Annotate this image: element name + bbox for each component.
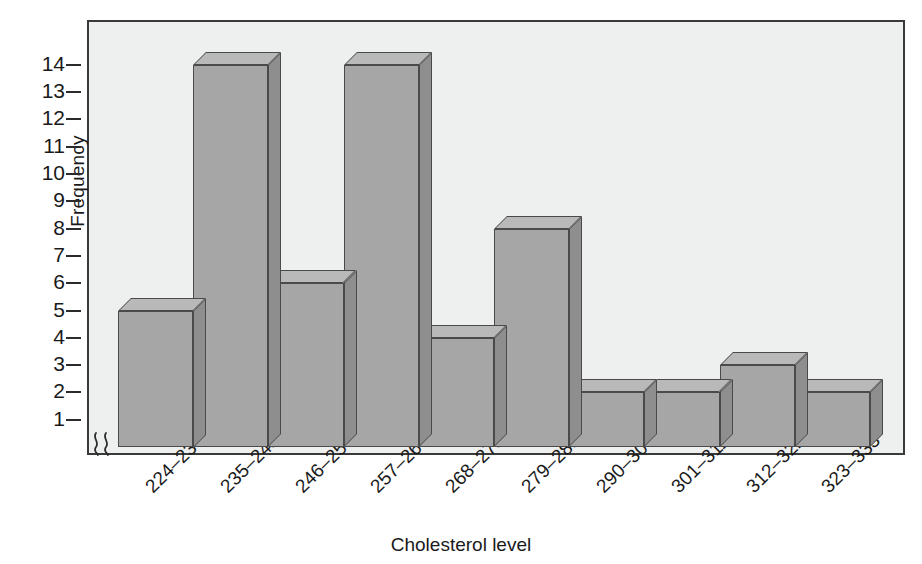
bar-side-face — [795, 352, 808, 447]
bar-top-face — [344, 52, 432, 65]
y-axis-tick-mark — [66, 337, 81, 339]
y-axis-tick-label: 8 — [53, 216, 65, 240]
bar-side-face — [193, 298, 206, 448]
y-axis-tick-mark — [66, 146, 81, 148]
y-axis-tick-mark — [66, 255, 81, 257]
bar-side-face — [419, 52, 432, 447]
bar-side-face — [344, 270, 357, 447]
x-axis-title: Cholesterol level — [0, 534, 922, 556]
bar — [118, 311, 193, 448]
y-axis-tick-mark — [66, 282, 81, 284]
bar-side-face — [268, 52, 281, 447]
y-axis-tick-mark — [66, 91, 81, 93]
bar-top-face — [268, 270, 356, 283]
bar-top-face — [720, 352, 808, 365]
bar-top-face — [419, 325, 507, 338]
y-axis-title: Frequency — [67, 101, 89, 261]
y-axis-tick-mark — [66, 228, 81, 230]
chart-figure: Frequency 1413121110987654321 224–234235… — [0, 0, 922, 564]
y-axis-tick-mark — [66, 364, 81, 366]
bar-top-face — [118, 298, 206, 311]
bars-container — [118, 20, 870, 455]
y-axis-tick-label: 12 — [42, 106, 65, 130]
y-axis-tick-label: 9 — [53, 188, 65, 212]
y-axis-tick-label: 7 — [53, 243, 65, 267]
y-axis-tick-label: 6 — [53, 270, 65, 294]
y-axis-tick-mark — [66, 173, 81, 175]
y-axis-tick-mark — [66, 419, 81, 421]
y-axis-tick-label: 1 — [53, 407, 65, 431]
y-axis-tick-label: 5 — [53, 298, 65, 322]
y-axis-tick-label: 4 — [53, 325, 65, 349]
bar-top-face — [644, 379, 732, 392]
axis-break-icon — [86, 431, 120, 457]
bar-side-face — [494, 325, 507, 447]
y-axis-tick-mark — [66, 118, 81, 120]
y-axis-tick-label: 10 — [42, 161, 65, 185]
bar-side-face — [569, 216, 582, 447]
bar-top-face — [795, 379, 883, 392]
y-axis-tick-label: 11 — [43, 134, 65, 158]
y-axis-tick-label: 3 — [53, 352, 65, 376]
y-axis-tick-mark — [66, 310, 81, 312]
y-axis-tick-label: 14 — [42, 52, 65, 76]
y-axis-tick-mark — [66, 391, 81, 393]
y-axis-tick-mark — [66, 64, 81, 66]
y-axis-tick-mark — [66, 200, 81, 202]
y-axis-tick-label: 13 — [42, 79, 65, 103]
y-axis-tick-label: 2 — [53, 379, 65, 403]
bar-top-face — [569, 379, 657, 392]
bar-top-face — [494, 216, 582, 229]
bar-front-face — [118, 311, 193, 448]
bar-top-face — [193, 52, 281, 65]
